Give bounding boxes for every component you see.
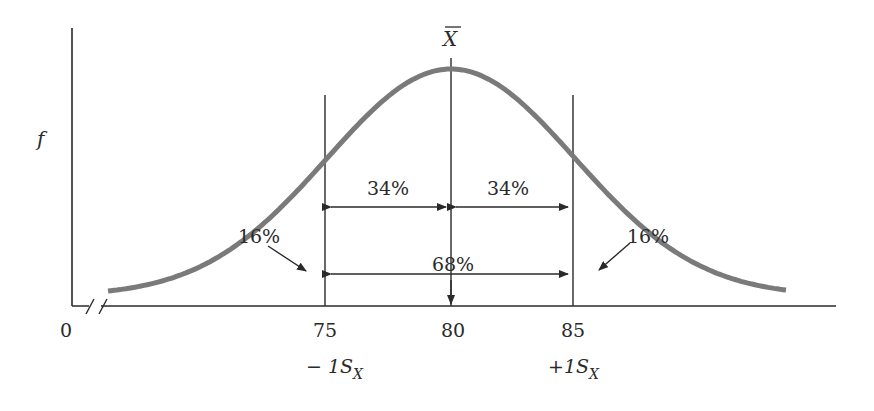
tick-80: 80 — [441, 319, 465, 341]
minus-sd-label: − 1SX — [306, 355, 364, 382]
pct-right-tail: 16% — [627, 225, 669, 247]
plus-sd-label: +1SX — [548, 355, 600, 382]
pct-left-tail: 16% — [238, 225, 280, 247]
mean-label: X — [441, 27, 458, 51]
tick-0: 0 — [60, 319, 72, 341]
left-tail-arrow — [268, 246, 306, 271]
pct-right-34: 34% — [487, 177, 529, 199]
y-axis-label: f — [35, 127, 48, 151]
tick-85: 85 — [561, 319, 585, 341]
pct-left-34: 34% — [367, 177, 409, 199]
normal-distribution-chart: f X 34% 34% 68% 16% 16% 0 75 80 85 − 1SX… — [0, 0, 874, 411]
right-tail-arrow — [599, 243, 630, 270]
tick-75: 75 — [313, 319, 337, 341]
pct-68: 68% — [432, 253, 474, 275]
